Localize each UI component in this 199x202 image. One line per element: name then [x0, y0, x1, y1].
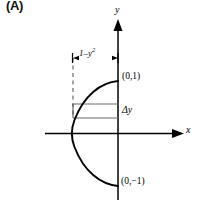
y-axis-label: y: [115, 4, 119, 15]
width-label: 1–y2: [79, 48, 95, 58]
x-axis: [45, 129, 184, 138]
representative-strip: [73, 104, 118, 118]
figure-container: (A): [0, 0, 199, 202]
delta-y-label: Δy: [122, 104, 132, 115]
width-label-base: 1–y: [79, 48, 92, 58]
x-axis-label: x: [186, 124, 190, 135]
parabola-plot: [0, 0, 199, 202]
width-label-exponent: 2: [92, 46, 95, 53]
top-point-label: (0,1): [122, 71, 140, 81]
bottom-point-label: (0,−1): [121, 176, 145, 186]
